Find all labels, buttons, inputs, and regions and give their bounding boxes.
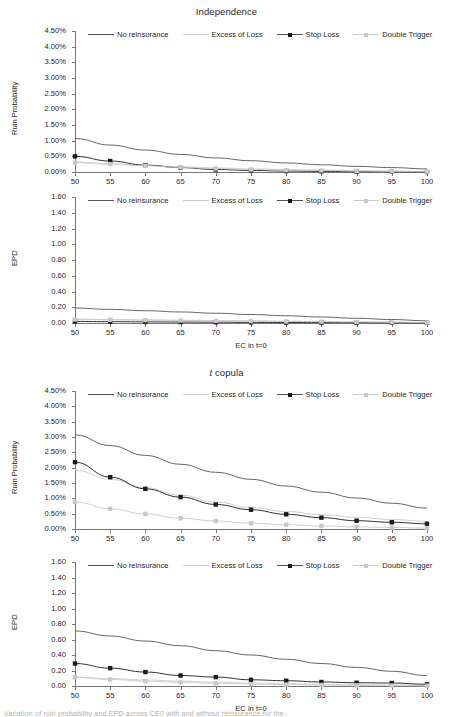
x-axis-tick [286,687,287,690]
series-line [75,677,427,685]
legend-label: No reinsurance [117,30,169,39]
legend-swatch-icon [277,565,303,566]
x-axis-tick-label: 95 [377,691,407,700]
x-axis-tick-label: 90 [342,328,372,337]
x-axis-tick-label: 70 [201,691,231,700]
y-axis-line [75,562,76,686]
series-marker [143,512,147,516]
series-marker [214,519,218,523]
series-marker [354,519,358,523]
legend-item-stop-loss: Stop Loss [277,196,340,205]
series-marker [284,512,288,516]
legend-label: Stop Loss [306,390,340,399]
y-axis-tick-label: 0.20 [0,302,66,311]
x-axis-tick-label: 50 [60,691,90,700]
series-line [75,470,427,521]
legend-item-no-reinsurance: No reinsurance [88,390,169,399]
y-axis-tick-label: 4.00% [0,401,66,410]
legend-item-stop-loss: Stop Loss [277,30,340,39]
chart-panel-tcopula-epd: No reinsuranceExcess of LossStop LossDou… [0,546,453,711]
y-axis-tick-label: 0.50% [0,151,66,160]
chart-title: Independence [0,6,453,17]
series-marker [108,159,112,163]
series-marker [390,520,394,524]
y-axis-tick-label: 1.00% [0,136,66,145]
series-marker [108,475,112,479]
y-axis-title: Ruin Probability [10,440,19,493]
series-marker [178,165,182,169]
x-axis-tick-label: 50 [60,534,90,543]
y-axis-title: Ruin Probability [10,82,19,135]
legend-item-no-reinsurance: No reinsurance [88,561,169,570]
legend-item-no-reinsurance: No reinsurance [88,196,169,205]
series-marker [319,515,323,519]
legend-label: Stop Loss [306,30,340,39]
y-axis-tick-label: 0.60 [0,635,66,644]
x-axis-tick-label: 90 [342,534,372,543]
series-line [75,163,427,172]
legend-swatch-icon [353,34,379,35]
legend-swatch-icon [353,565,379,566]
x-axis-tick [110,687,111,690]
chart-legend: No reinsuranceExcess of LossStop LossDou… [88,30,432,39]
x-axis-tick-label: 60 [130,691,160,700]
chart-plot-area [0,0,453,190]
series-marker [249,521,253,525]
y-axis-tick-label: 0.40 [0,650,66,659]
y-axis-title: EPD [10,615,19,631]
series-marker [214,502,218,506]
x-axis-tick-label: 60 [130,534,160,543]
x-axis-tick-label: 55 [95,534,125,543]
legend-item-excess-of-loss: Excess of Loss [183,30,263,39]
x-axis-tick [251,173,252,176]
legend-swatch-icon [277,200,303,201]
x-axis-tick-label: 75 [236,328,266,337]
x-axis-tick [110,173,111,176]
y-axis-tick-label: 1.40 [0,573,66,582]
x-axis-tick [181,530,182,533]
legend-item-stop-loss: Stop Loss [277,561,340,570]
y-axis-tick-label: 1.00% [0,493,66,502]
x-axis-tick [181,687,182,690]
x-axis-tick-label: 75 [236,534,266,543]
x-axis-tick-label: 100 [412,328,442,337]
x-axis-tick-label: 65 [166,328,196,337]
x-axis-tick-label: 65 [166,534,196,543]
x-axis-tick-label: 70 [201,328,231,337]
legend-swatch-icon [183,565,209,566]
chart-legend: No reinsuranceExcess of LossStop LossDou… [88,561,432,570]
series-marker [319,680,323,684]
legend-label: Stop Loss [306,561,340,570]
x-axis-tick [427,530,428,533]
y-axis-tick-label: 4.50% [0,386,66,395]
x-axis-tick-label: 95 [377,328,407,337]
x-axis-tick-label: 100 [412,534,442,543]
x-axis-tick [216,687,217,690]
chart-legend: No reinsuranceExcess of LossStop LossDou… [88,196,432,205]
x-axis-tick [321,324,322,327]
chart-legend: No reinsuranceExcess of LossStop LossDou… [88,390,432,399]
x-axis-tick [427,173,428,176]
legend-label: Double Trigger [382,196,432,205]
x-axis-tick-label: 60 [130,177,160,186]
legend-swatch-icon [183,34,209,35]
y-axis-tick-label: 1.60 [0,557,66,566]
x-axis-tick [321,173,322,176]
x-axis-tick [357,324,358,327]
y-axis-tick-label: 0.00 [0,681,66,690]
series-marker [178,673,182,677]
series-marker [143,679,147,683]
y-axis-tick-label: 1.40 [0,208,66,217]
x-axis-tick [427,687,428,690]
legend-label: No reinsurance [117,196,169,205]
legend-label: Double Trigger [382,30,432,39]
legend-label: No reinsurance [117,390,169,399]
y-axis-tick-label: 0.40 [0,287,66,296]
x-axis-tick [216,530,217,533]
x-axis-title: EC in t=0 [75,341,427,350]
x-axis-tick-label: 65 [166,691,196,700]
series-marker [143,163,147,167]
x-axis-tick [251,324,252,327]
x-axis-tick-label: 70 [201,177,231,186]
x-axis-tick-label: 65 [166,177,196,186]
